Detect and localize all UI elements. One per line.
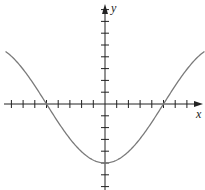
y-axis-label: y: [110, 1, 117, 15]
chart: x y: [0, 0, 205, 190]
y-axis-arrow-icon: [102, 4, 108, 14]
ticks: [11, 10, 187, 187]
x-axis-label: x: [195, 107, 202, 121]
